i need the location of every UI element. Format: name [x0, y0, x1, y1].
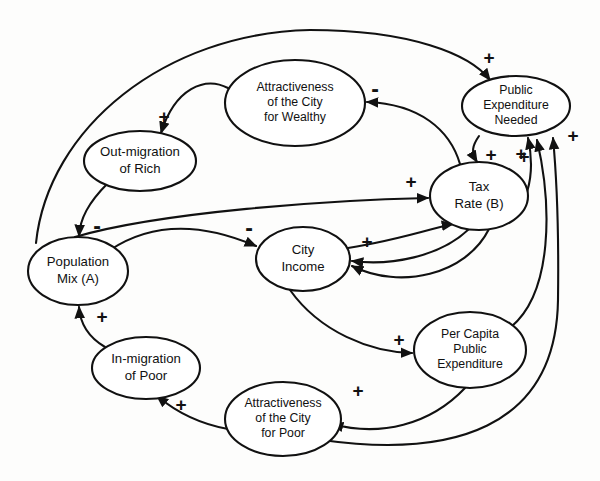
node-city_income[interactable]: CityIncome [256, 227, 350, 291]
node-attractiveness_poor[interactable]: Attractivenessof the Cityfor Poor [225, 382, 341, 456]
polarity-per_capita_to_attr_poor: + [352, 380, 363, 401]
causal-link-attr_poor_to_in_migration [157, 396, 228, 429]
causal-link-public_expenditure_to_tax_rate [473, 136, 479, 162]
polarity-tax_rate_to_city_income_a: + [361, 231, 372, 252]
polarity-population_mix_to_tax_rate: + [405, 171, 416, 192]
node-public_expenditure_needed[interactable]: PublicExpenditureNeeded [462, 76, 570, 136]
causal-link-per_capita_to_public_expenditure [511, 140, 546, 327]
node-per_capita_public_expenditure[interactable]: Per CapitaPublicExpenditure [414, 312, 526, 388]
polarity-public_expenditure_to_tax_rate: + [485, 144, 496, 165]
causal-loop-diagram-canvas: Out-migrationof RichAttractivenessof the… [0, 0, 600, 481]
polarity-population_mix_to_public_expenditure: + [483, 47, 494, 68]
node-attractiveness_wealthy[interactable]: Attractivenessof the Cityfor Wealthy [225, 60, 365, 146]
node-out_migration_rich[interactable]: Out-migrationof Rich [84, 131, 196, 191]
node-label-attractiveness_wealthy: Attractivenessof the Cityfor Wealthy [256, 80, 333, 124]
polarity-in_migration_to_population_mix: + [96, 306, 107, 327]
node-population_mix[interactable]: PopulationMix (A) [28, 237, 128, 305]
nodes-layer: Out-migrationof RichAttractivenessof the… [28, 60, 570, 456]
node-in_migration_poor[interactable]: In-migrationof Poor [92, 337, 200, 399]
causal-link-attr_wealthy_to_out_migration [161, 84, 228, 133]
polarity-per_capita_to_public_expenditure: + [518, 146, 529, 167]
causal-link-population_mix_to_city_income [110, 228, 256, 250]
polarity-attr_wealthy_to_out_migration: + [158, 106, 169, 127]
node-tax_rate[interactable]: TaxRate (B) [430, 162, 528, 230]
causal-link-tax_rate_to_attr_wealthy [367, 102, 460, 164]
causal-loop-diagram-root: Out-migrationof RichAttractivenessof the… [0, 0, 600, 481]
polarity-attr_poor_to_public_expenditure: + [567, 125, 578, 146]
polarity-attr_poor_to_in_migration: + [175, 394, 186, 415]
polarity-population_mix_to_city_income: - [245, 215, 253, 241]
polarity-city_income_to_per_capita: + [393, 329, 404, 350]
polarity-out_migration_to_population_mix: - [93, 213, 101, 239]
polarity-tax_rate_to_attr_wealthy: - [371, 76, 379, 102]
